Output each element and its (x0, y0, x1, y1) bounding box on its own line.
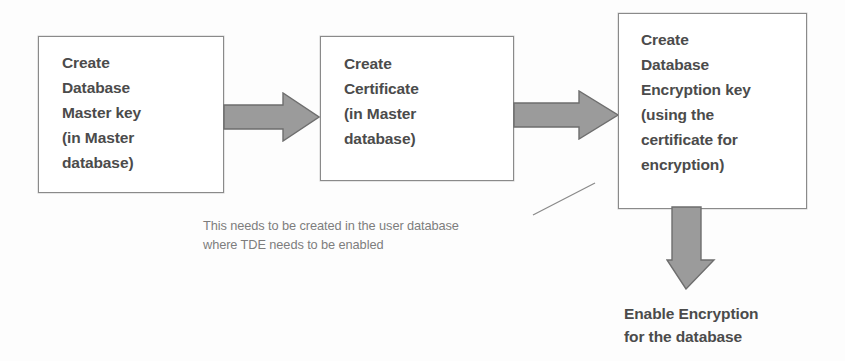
label-enable-encryption: Enable Encryption for the database (624, 302, 758, 348)
process-box-certificate-label: Create Certificate (in Master database) (344, 51, 419, 151)
right-block-arrow-icon (513, 90, 619, 140)
leader-line-icon (530, 180, 598, 218)
process-box-encryption-key: Create Database Encryption key (using th… (618, 13, 807, 209)
right-block-arrow-icon (223, 92, 320, 142)
process-box-master-key-label: Create Database Master key (in Master da… (62, 50, 141, 175)
process-box-master-key: Create Database Master key (in Master da… (38, 36, 224, 193)
process-box-encryption-key-label: Create Database Encryption key (using th… (641, 27, 751, 177)
note-user-database: This needs to be created in the user dat… (203, 216, 463, 254)
process-box-certificate: Create Certificate (in Master database) (320, 36, 514, 181)
down-block-arrow-icon (666, 206, 716, 290)
tde-setup-diagram: Create Database Master key (in Master da… (0, 0, 845, 361)
